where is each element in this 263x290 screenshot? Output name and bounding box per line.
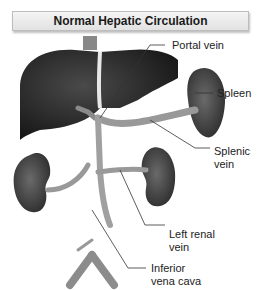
right-kidney <box>14 153 51 212</box>
spleen <box>187 68 225 137</box>
label-spleen: Spleen <box>217 87 251 100</box>
left-kidney <box>142 147 175 206</box>
label-splenic-vein-line2: vein <box>214 158 234 171</box>
label-ivc-line2: vena cava <box>151 275 201 288</box>
label-left-renal-vein-line1: Left renal <box>169 228 215 241</box>
label-ivc-line1: Inferior <box>151 262 185 275</box>
label-splenic-vein-line1: Splenic <box>214 145 250 158</box>
ivc-top-stub <box>83 36 97 50</box>
label-portal-vein: Portal vein <box>172 39 224 52</box>
label-left-renal-vein-line2: vein <box>169 241 189 254</box>
